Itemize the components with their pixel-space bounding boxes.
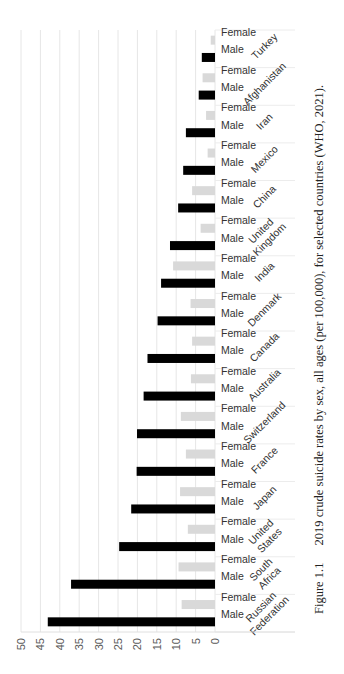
figure-number: Figure 1.1 <box>312 563 326 614</box>
y-tick-label: 20 <box>131 638 143 650</box>
sex-label: Male <box>221 457 244 469</box>
sex-label: Female <box>221 290 256 302</box>
sex-label: Male <box>221 420 244 432</box>
bar-male: France Male: 20.2 <box>137 467 215 476</box>
y-tick-label: 35 <box>73 638 85 650</box>
sex-label: Female <box>221 139 256 151</box>
sex-label: Male <box>221 382 244 394</box>
sex-label: Male <box>221 43 244 55</box>
y-tick-label: 40 <box>54 638 66 650</box>
bar-male: Russian Federation Male: 43.1 <box>48 617 215 626</box>
bar-male: Japan Male: 21.6 <box>131 504 215 513</box>
rotated-figure: 05101520253035404550Russian Federation M… <box>0 0 344 674</box>
bar-female: Mexico Female: 1.9 <box>208 149 215 158</box>
bar-female: South Africa Female: 9.4 <box>179 562 215 571</box>
sex-label: Male <box>221 495 244 507</box>
sex-label: Male <box>221 344 244 356</box>
sex-label: Female <box>221 64 256 76</box>
figure-caption: Figure 1.1 2019 crude suicide rates by s… <box>312 14 327 614</box>
sex-label: Male <box>221 608 244 620</box>
bar-male: Iran Male: 7.5 <box>186 128 215 137</box>
sex-label: Male <box>221 81 244 93</box>
bar-male: Canada Male: 17.4 <box>147 354 215 363</box>
y-tick-label: 10 <box>170 638 182 650</box>
bar-male: South Africa Male: 37.1 <box>71 580 215 589</box>
bar-female: United Kingdom Female: 3.7 <box>201 224 215 233</box>
bar-male: Denmark Male: 14.8 <box>158 316 215 325</box>
y-tick-label: 50 <box>15 638 27 650</box>
sex-label: Female <box>221 402 256 414</box>
y-tick-label: 30 <box>93 638 105 650</box>
bar-male: Turkey Male: 3.4 <box>202 53 215 62</box>
sex-label: Female <box>221 553 256 565</box>
sex-label: Female <box>221 591 256 603</box>
caption-text: 2019 crude suicide rates by sex, all age… <box>312 85 326 546</box>
sex-label: Male <box>221 232 244 244</box>
sex-label: Male <box>221 269 244 281</box>
bar-female: Canada Female: 5.9 <box>192 337 215 346</box>
bar-chart: 05101520253035404550Russian Federation M… <box>0 0 344 674</box>
bar-female: Australia Female: 6.2 <box>191 374 215 383</box>
bar-female: Switzerland Female: 8.8 <box>181 412 215 421</box>
bar-female: United States Female: 7 <box>188 525 215 534</box>
sex-label: Female <box>221 515 256 527</box>
bar-male: United Kingdom Male: 11.6 <box>170 241 215 250</box>
sex-label: Male <box>221 570 244 582</box>
y-tick-label: 45 <box>34 638 46 650</box>
sex-label: Male <box>221 533 244 545</box>
sex-label: Female <box>221 365 256 377</box>
sex-label: Male <box>221 119 244 131</box>
bar-female: France Female: 7.5 <box>186 450 215 459</box>
sex-label: Male <box>221 307 244 319</box>
y-tick-label: 25 <box>112 638 124 650</box>
bar-male: India Male: 13.9 <box>161 279 215 288</box>
bar-female: Iran Female: 2.3 <box>206 111 215 120</box>
sex-label: Female <box>221 252 256 264</box>
bar-female: India Female: 10.8 <box>173 261 215 270</box>
sex-label: Female <box>221 478 256 490</box>
y-tick-label: 0 <box>209 638 221 644</box>
bar-female: Denmark Female: 6.3 <box>191 299 215 308</box>
bar-female: Afghanistan Female: 3.2 <box>203 73 215 82</box>
y-tick-label: 15 <box>151 638 163 650</box>
sex-label: Female <box>221 26 256 38</box>
bar-male: Switzerland Male: 20.1 <box>137 429 215 438</box>
bar-male: Mexico Male: 8.2 <box>183 166 215 175</box>
sex-label: Female <box>221 177 256 189</box>
bar-female: China Female: 5.9 <box>192 186 215 195</box>
bar-male: United States Male: 24.7 <box>119 542 215 551</box>
y-tick-label: 5 <box>190 638 202 644</box>
bar-female: Turkey Female: 1.1 <box>211 36 215 45</box>
bar-female: Japan Female: 9 <box>180 487 215 496</box>
sex-label: Male <box>221 156 244 168</box>
bar-male: Afghanistan Male: 4.2 <box>199 91 215 100</box>
bar-female: Russian Federation Female: 8.6 <box>182 600 215 609</box>
country-label: Iran <box>254 110 275 131</box>
sex-label: Female <box>221 214 256 226</box>
bar-male: China Male: 9.5 <box>178 203 215 212</box>
sex-label: Male <box>221 194 244 206</box>
bar-male: Australia Male: 18.4 <box>144 392 215 401</box>
sex-label: Female <box>221 327 256 339</box>
